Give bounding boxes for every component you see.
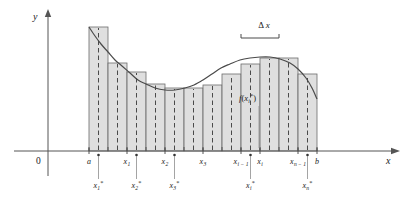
sample-point-dot [173,154,176,157]
origin-label: 0 [36,156,41,166]
y-axis-arrow-icon [45,9,51,17]
axis-tick-label: a [87,157,91,166]
sample-point-dot [306,154,309,157]
delta-x-annotation: Δx [241,20,279,38]
axis-tick-label: xi [256,157,263,167]
sample-point-dot [249,154,252,157]
sample-point-label: x1* [92,179,103,191]
f-value-label: f(xi*) [239,92,256,104]
axis-tick-label: x3 [199,157,207,167]
axis-tick-label: x1 [123,157,131,167]
riemann-rectangle [241,64,260,151]
sample-point-dot [135,154,138,157]
delta-x-brace [241,34,279,38]
sample-point-label: x2* [130,179,141,191]
riemann-rectangles-group [89,27,317,151]
sample-point-labels-group: x1*x2*x3*xi*xn* [92,179,312,191]
riemann-sum-figure: ax1x2x3xi − 1xixn − 1b x1*x2*x3*xi*xn* Δ… [0,0,404,201]
sample-point-label: x3* [168,179,179,191]
axis-tick-label: xn − 1 [289,157,306,167]
axis-tick-label: b [315,157,319,166]
sample-point-label: xi* [245,179,255,191]
sample-point-dot [97,154,100,157]
axis-tick-label: xi − 1 [233,157,249,167]
y-axis-label: y [32,11,38,22]
sample-point-label: xn* [301,179,312,191]
x-axis-label: x [385,155,391,166]
delta-x-label: Δx [258,20,269,30]
axis-tick-labels-group: ax1x2x3xi − 1xixn − 1b [87,157,319,167]
x-axis-arrow-icon [391,148,400,154]
axis-tick-label: x2 [161,157,169,167]
riemann-sum-svg: ax1x2x3xi − 1xixn − 1b x1*x2*x3*xi*xn* Δ… [0,0,404,201]
riemann-rectangle [108,63,127,151]
